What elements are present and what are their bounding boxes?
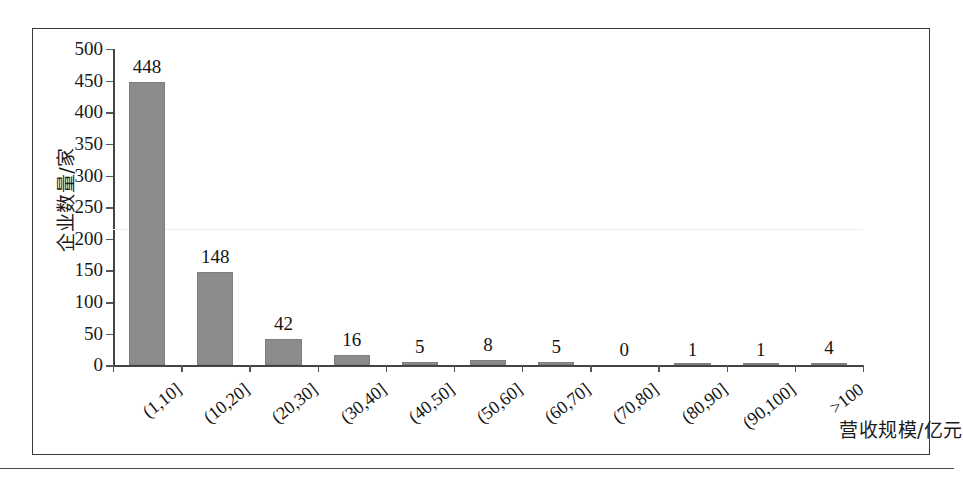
y-axis-tick-label: 250 <box>75 196 104 218</box>
y-axis-tick-label: 450 <box>75 70 104 92</box>
bar-value-label: 16 <box>342 329 361 351</box>
x-axis-tick <box>318 365 319 372</box>
x-axis-tick <box>658 365 659 372</box>
bar-value-label: 5 <box>415 336 425 358</box>
y-axis-tick-label: 400 <box>75 101 104 123</box>
y-axis-tick-label: 50 <box>84 323 103 345</box>
plot-area: 050100150200250300350400450500 448148421… <box>113 49 863 367</box>
x-axis-tick-label: (80,90] <box>677 379 731 428</box>
x-axis-tick <box>795 365 796 372</box>
y-axis-tick <box>106 302 113 303</box>
y-axis-tick-label: 300 <box>75 165 104 187</box>
x-axis-tick-label: (50,60] <box>473 379 527 428</box>
faint-gridline-artifact <box>113 229 863 230</box>
x-axis-tick <box>249 365 250 372</box>
x-axis-tick-label: >100 <box>826 379 868 418</box>
x-axis-tick-label: (40,50] <box>404 379 458 428</box>
bar-value-label: 8 <box>483 334 493 356</box>
bar-value-label: 42 <box>274 313 293 335</box>
bar-value-label: 1 <box>756 339 766 361</box>
y-axis-tick-label: 500 <box>75 38 104 60</box>
y-axis-line <box>113 49 115 367</box>
chart-frame: 企业数量/家 050100150200250300350400450500 44… <box>32 28 930 455</box>
bar <box>334 355 370 365</box>
y-axis-tick-label: 100 <box>75 291 104 313</box>
bar-value-label: 5 <box>551 336 561 358</box>
bar <box>129 82 165 365</box>
y-axis-tick <box>106 81 113 82</box>
x-axis-tick-label: (30,40] <box>336 379 390 428</box>
x-axis-tick <box>181 365 182 372</box>
bar-value-label: 448 <box>133 56 162 78</box>
y-axis-tick-label: 150 <box>75 259 104 281</box>
bar-value-label: 148 <box>201 246 230 268</box>
y-axis-tick-label: 200 <box>75 228 104 250</box>
bar-value-label: 0 <box>620 339 630 361</box>
bar <box>402 362 438 365</box>
bar <box>743 363 779 365</box>
x-axis-tick-label: (20,30] <box>268 379 322 428</box>
y-axis-tick <box>106 334 113 335</box>
y-axis-tick <box>106 144 113 145</box>
y-axis-tick <box>106 176 113 177</box>
x-axis-tick <box>454 365 455 372</box>
page-rule-artifact <box>0 468 954 469</box>
y-axis-tick <box>106 207 113 208</box>
bar <box>265 339 301 366</box>
x-axis-tick <box>386 365 387 372</box>
bar <box>674 363 710 365</box>
x-axis-tick <box>863 365 864 372</box>
x-axis-tick <box>590 365 591 372</box>
y-axis-tick <box>106 239 113 240</box>
bar <box>197 272 233 366</box>
y-axis-title-label: 企业数量/家 <box>51 147 78 251</box>
x-axis-tick <box>113 365 114 372</box>
x-axis-tick <box>522 365 523 372</box>
y-axis-tick <box>106 49 113 50</box>
x-axis-tick-label: (10,20] <box>200 379 254 428</box>
x-axis-tick-label: (1,10] <box>139 379 186 422</box>
bar-value-label: 4 <box>824 337 834 359</box>
x-axis-tick-label: (70,80] <box>609 379 663 428</box>
y-axis-tick <box>106 112 113 113</box>
bar <box>538 362 574 365</box>
y-axis-tick <box>106 365 113 366</box>
bar-value-label: 1 <box>688 339 698 361</box>
x-axis-line <box>113 365 863 367</box>
x-axis-tick-label: (90,100] <box>738 379 799 433</box>
bar <box>470 360 506 365</box>
y-axis-tick <box>106 270 113 271</box>
y-axis-tick-label: 350 <box>75 133 104 155</box>
y-axis-tick-label: 0 <box>94 354 104 376</box>
x-axis-tick <box>727 365 728 372</box>
bar <box>811 363 847 366</box>
x-axis-title: 营收规模/亿元 <box>839 415 963 442</box>
x-axis-tick-label: (60,70] <box>541 379 595 428</box>
